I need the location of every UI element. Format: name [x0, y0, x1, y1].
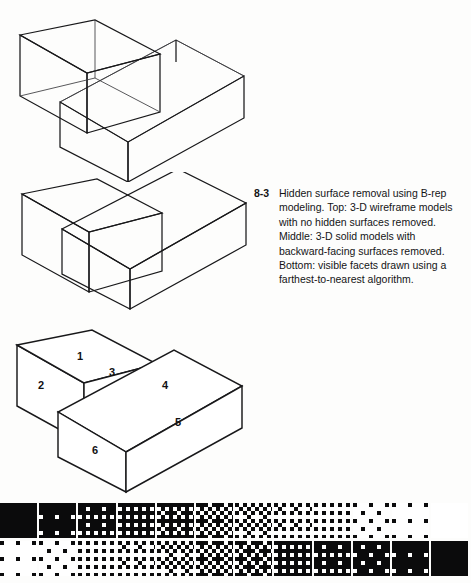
- dither-swatch: [274, 541, 311, 576]
- dither-swatch: [39, 503, 76, 538]
- dither-swatch: [118, 503, 155, 538]
- facet-label-4: 4: [162, 379, 169, 391]
- dither-swatch: [353, 503, 390, 538]
- small-box-wireframe: [20, 20, 160, 133]
- dither-swatch: [157, 503, 194, 538]
- small-box-solid: [22, 179, 162, 292]
- dither-swatch: [314, 503, 351, 538]
- dither-swatch: [0, 541, 37, 576]
- dither-swatch: [353, 541, 390, 576]
- dither-swatch: [274, 503, 311, 538]
- middle-solid-panel: [0, 172, 265, 332]
- dither-swatch: [392, 503, 429, 538]
- facet-label-3: 3: [109, 366, 115, 378]
- dither-ramp-dark-to-light: [0, 503, 471, 538]
- figure-caption: 8-3 Hidden surface removal using B-rep m…: [254, 186, 466, 287]
- dither-swatch: [196, 503, 233, 538]
- dither-swatch: [431, 541, 468, 576]
- dither-swatch: [157, 541, 194, 576]
- dither-swatch: [431, 503, 468, 538]
- top-wireframe-panel: [0, 14, 265, 182]
- dither-swatch: [235, 503, 272, 538]
- figure-caption-text: Hidden surface removal using B-rep model…: [279, 186, 466, 287]
- dither-swatch: [314, 541, 351, 576]
- figure-page: 1 2 3 4 5 6 8-3 Hidden surface removal u…: [0, 0, 471, 583]
- facet-label-1: 1: [77, 350, 83, 362]
- dither-swatch: [0, 503, 37, 538]
- dither-swatch: [235, 541, 272, 576]
- facet-label-6: 6: [92, 444, 98, 456]
- dither-swatch: [196, 541, 233, 576]
- dither-ramp-light-to-dark: [0, 541, 471, 576]
- dither-swatch: [78, 503, 115, 538]
- facet-label-5: 5: [175, 416, 181, 428]
- dither-swatch: [392, 541, 429, 576]
- figure-number: 8-3: [254, 186, 269, 199]
- dither-swatch: [78, 541, 115, 576]
- dither-swatch: [118, 541, 155, 576]
- facet-label-2: 2: [38, 379, 44, 391]
- dither-swatch: [39, 541, 76, 576]
- dither-swatch-bars: [0, 503, 471, 576]
- bottom-facets-panel: 1 2 3 4 5 6: [0, 326, 265, 496]
